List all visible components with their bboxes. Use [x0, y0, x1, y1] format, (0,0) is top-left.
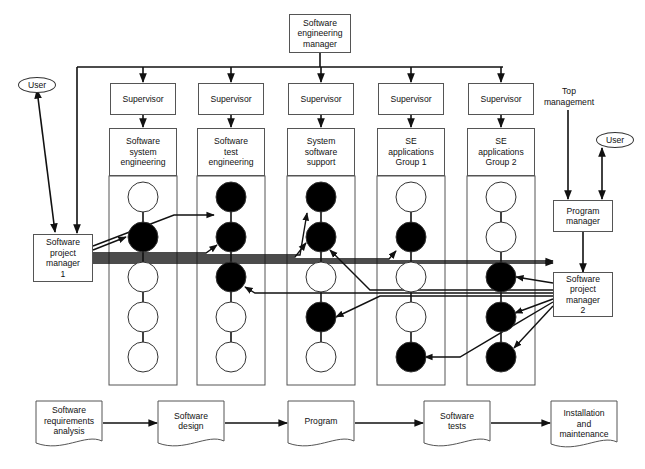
lifecycle-step-label: Software design	[158, 402, 224, 440]
supervisor-box: Supervisor	[110, 83, 176, 115]
staff-member-unassigned	[486, 182, 516, 212]
supervisor-label: Supervisor	[300, 94, 341, 105]
supervisor-label: Supervisor	[210, 94, 251, 105]
staff-member-unassigned	[306, 262, 336, 292]
user-left-ellipse: User	[18, 77, 56, 93]
lifecycle-step-label: Software tests	[424, 402, 490, 440]
staff-member-unassigned	[128, 342, 158, 372]
staff-member-unassigned	[216, 302, 246, 332]
staff-member-unassigned	[396, 262, 426, 292]
department-header: Software test engineering	[197, 128, 265, 176]
department-header: SE applications Group 1	[377, 128, 445, 176]
staff-member-unassigned	[396, 182, 426, 212]
supervisor-label: Supervisor	[390, 94, 431, 105]
department-label: Software system engineering	[121, 136, 166, 168]
project-manager-2-assignment	[514, 306, 553, 348]
department-header: System software support	[287, 128, 355, 176]
project-manager-1-label: Software project manager 1	[46, 237, 80, 279]
software-engineering-manager-box: Software engineering manager	[289, 14, 351, 53]
program-manager-label: Program manager	[566, 206, 600, 227]
staff-member-assigned	[306, 182, 336, 212]
staff-member-assigned	[306, 222, 336, 252]
connector-user-left	[37, 90, 55, 232]
supervisor-box: Supervisor	[198, 83, 264, 115]
staff-member-assigned	[396, 342, 426, 372]
user-right-ellipse: User	[596, 132, 634, 148]
staff-member-assigned	[128, 222, 158, 252]
staff-member-unassigned	[486, 222, 516, 252]
staff-member-assigned	[486, 342, 516, 372]
top-management-label: Top management	[540, 86, 598, 107]
staff-member-assigned	[216, 182, 246, 212]
department-label: SE applications Group 1	[388, 136, 433, 168]
staff-member-unassigned	[216, 342, 246, 372]
lifecycle-step-label: Installation and maintenance	[551, 404, 617, 444]
supervisor-box: Supervisor	[468, 83, 534, 115]
department-header: SE applications Group 2	[467, 128, 535, 176]
project-manager-1-box: Software project manager 1	[33, 234, 93, 282]
program-manager-box: Program manager	[553, 200, 613, 232]
department-label: SE applications Group 2	[478, 136, 523, 168]
staff-member-unassigned	[396, 302, 426, 332]
staff-member-unassigned	[128, 302, 158, 332]
software-engineering-manager-label: Software engineering manager	[298, 18, 343, 50]
project-manager-2-box: Software project manager 2	[553, 272, 613, 317]
project-manager-2-label: Software project manager 2	[566, 274, 600, 316]
lifecycle-step-label: Program	[288, 402, 354, 440]
staff-member-unassigned	[128, 262, 158, 292]
supervisor-box: Supervisor	[288, 83, 354, 115]
staff-member-unassigned	[306, 342, 336, 372]
staff-member-assigned	[486, 302, 516, 332]
department-label: Software test engineering	[209, 136, 254, 168]
supervisor-label: Supervisor	[480, 94, 521, 105]
department-label: System software support	[305, 136, 337, 168]
staff-member-assigned	[216, 262, 246, 292]
staff-member-assigned	[486, 262, 516, 292]
lifecycle-step-label: Software requirements analysis	[36, 402, 102, 440]
matrix-organization-diagram	[0, 0, 645, 469]
user-left-label: User	[28, 80, 46, 90]
department-header: Software system engineering	[109, 128, 177, 176]
supervisor-box: Supervisor	[378, 83, 444, 115]
staff-member-assigned	[216, 222, 246, 252]
project-manager-2-assignment	[330, 250, 553, 290]
staff-member-unassigned	[128, 182, 158, 212]
staff-member-assigned	[306, 302, 336, 332]
user-right-label: User	[606, 135, 624, 145]
staff-member-assigned	[396, 222, 426, 252]
supervisor-label: Supervisor	[122, 94, 163, 105]
